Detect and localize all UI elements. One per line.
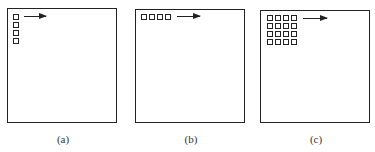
square: [291, 39, 297, 45]
arrow-right-icon: [303, 18, 327, 19]
square: [291, 23, 297, 29]
square: [157, 14, 163, 20]
square: [267, 31, 273, 37]
square: [13, 30, 19, 36]
panel-b: [135, 9, 245, 123]
square: [267, 23, 273, 29]
panel-a: [7, 8, 117, 123]
square: [283, 39, 289, 45]
square: [275, 39, 281, 45]
square: [13, 38, 19, 44]
square: [141, 14, 147, 20]
square: [13, 22, 19, 28]
panel-c-label: (c): [296, 133, 336, 145]
square: [165, 14, 171, 20]
panel-c: [260, 10, 370, 123]
square: [13, 14, 19, 20]
arrow-right-icon: [24, 16, 46, 17]
square: [275, 31, 281, 37]
square: [275, 15, 281, 21]
square: [267, 15, 273, 21]
square: [267, 39, 273, 45]
square: [291, 15, 297, 21]
panel-a-label: (a): [43, 133, 83, 145]
arrow-right-icon: [177, 16, 200, 17]
square: [283, 23, 289, 29]
square: [283, 15, 289, 21]
square: [149, 14, 155, 20]
square: [275, 23, 281, 29]
square: [283, 31, 289, 37]
panel-b-label: (b): [171, 133, 211, 145]
square: [291, 31, 297, 37]
